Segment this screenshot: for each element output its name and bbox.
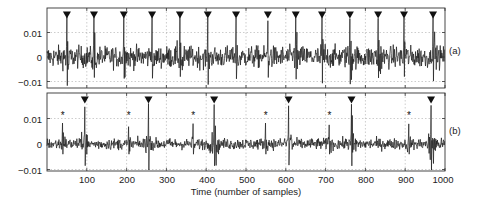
star-marker-icon: * bbox=[191, 110, 195, 121]
xtick-label: 600 bbox=[278, 174, 294, 185]
xtick-label: 300 bbox=[159, 174, 175, 185]
triangle-marker-icon bbox=[264, 12, 272, 19]
triangle-marker-icon bbox=[232, 12, 240, 19]
triangle-marker-icon bbox=[346, 12, 354, 19]
triangle-marker-icon bbox=[204, 12, 212, 19]
triangle-marker-icon bbox=[144, 97, 152, 104]
star-marker-icon: * bbox=[264, 110, 268, 121]
triangle-marker-icon bbox=[429, 12, 437, 19]
triangle-marker-icon bbox=[347, 97, 355, 104]
triangle-marker-icon bbox=[318, 12, 326, 19]
ytick-b-mid: 0 bbox=[37, 139, 42, 150]
triangle-marker-icon bbox=[210, 97, 218, 104]
ytick-b-bot: −0.01 bbox=[18, 165, 42, 176]
xtick-label: 100 bbox=[79, 174, 95, 185]
triangle-marker-icon bbox=[176, 12, 184, 19]
star-marker-icon: * bbox=[127, 110, 131, 121]
star-marker-icon: * bbox=[327, 110, 331, 121]
x-axis-label: Time (number of samples) bbox=[191, 186, 302, 197]
triangle-marker-icon bbox=[292, 12, 300, 19]
ytick-a-top: 0.01 bbox=[24, 28, 43, 39]
markers-a bbox=[63, 12, 437, 19]
panel-b-label: (b) bbox=[449, 125, 461, 136]
x-tick-labels: 100 200 300 400 500 600 700 800 900 1000 bbox=[79, 174, 454, 185]
triangle-marker-icon bbox=[427, 97, 435, 104]
panel-a-label: (a) bbox=[449, 45, 461, 56]
triangle-marker-icon bbox=[148, 12, 156, 19]
triangle-marker-icon bbox=[400, 12, 408, 19]
triangle-marker-icon bbox=[90, 12, 98, 19]
figure: 0.01 0 −0.01 (a) ****** 0.01 0 −0.01 (b)… bbox=[0, 0, 477, 203]
grid-a bbox=[47, 8, 445, 88]
star-marker-icon: * bbox=[407, 110, 411, 121]
grid-b bbox=[47, 93, 445, 171]
markers-b: ****** bbox=[61, 97, 435, 121]
panel-b: ****** 0.01 0 −0.01 (b) bbox=[18, 93, 461, 176]
star-marker-icon: * bbox=[61, 110, 65, 121]
xtick-label: 500 bbox=[239, 174, 255, 185]
panel-a: 0.01 0 −0.01 (a) bbox=[18, 8, 461, 88]
ytick-a-bot: −0.01 bbox=[18, 77, 42, 88]
xtick-label: 900 bbox=[398, 174, 414, 185]
xtick-label: 800 bbox=[358, 174, 374, 185]
xtick-label: 200 bbox=[119, 174, 135, 185]
xtick-label: 400 bbox=[199, 174, 215, 185]
xtick-label: 700 bbox=[318, 174, 334, 185]
triangle-marker-icon bbox=[63, 12, 71, 19]
ytick-a-mid: 0 bbox=[37, 52, 42, 63]
triangle-marker-icon bbox=[81, 97, 89, 104]
ytick-b-top: 0.01 bbox=[24, 114, 43, 125]
xtick-label: 1000 bbox=[432, 174, 453, 185]
triangle-marker-icon bbox=[374, 12, 382, 19]
